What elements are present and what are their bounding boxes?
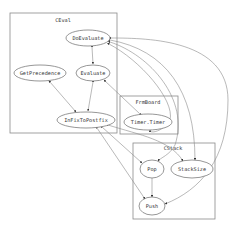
node-label: GetPrecedence bbox=[20, 70, 61, 76]
call-graph-diagram: CEvalFrmBoardCStack DoEvaluateGetPrecede… bbox=[0, 0, 236, 229]
cluster-label: FrmBoard bbox=[136, 99, 161, 105]
node-label: Push bbox=[146, 203, 159, 209]
node-getprecedence[interactable]: GetPrecedence bbox=[14, 65, 66, 81]
edge-timer-to-evaluate bbox=[104, 80, 140, 114]
node-stacksize[interactable]: StackSize bbox=[171, 160, 213, 178]
node-infixtopostfix[interactable]: InFixToPostfix bbox=[57, 112, 115, 128]
cluster-label: CEval bbox=[55, 17, 71, 23]
node-timer[interactable]: Timer.Timer bbox=[124, 114, 172, 130]
node-label: InFixToPostfix bbox=[64, 117, 108, 123]
edge-infixtopostfix-to-push bbox=[97, 128, 145, 199]
clusters-layer: CEvalFrmBoardCStack bbox=[10, 13, 215, 219]
node-label: Pop bbox=[147, 166, 156, 173]
node-label: DoEvaluate bbox=[72, 35, 103, 41]
node-doevaluate[interactable]: DoEvaluate bbox=[66, 30, 110, 46]
node-pop[interactable]: Pop bbox=[140, 160, 164, 178]
node-label: Evaluate bbox=[81, 70, 106, 76]
node-label: Timer.Timer bbox=[131, 119, 165, 125]
edge-evaluate-to-infixtopostfix bbox=[88, 82, 93, 111]
node-label: StackSize bbox=[178, 166, 206, 172]
node-evaluate[interactable]: Evaluate bbox=[76, 65, 110, 81]
edge-getprecedence-to-infixtopostfix bbox=[50, 82, 76, 112]
edge-doevaluate-to-evaluate bbox=[92, 47, 93, 64]
node-push[interactable]: Push bbox=[139, 197, 165, 215]
nodes-layer: DoEvaluateGetPrecedenceEvaluateInFixToPo… bbox=[14, 30, 213, 215]
edge-infixtopostfix-to-pop bbox=[102, 127, 142, 163]
